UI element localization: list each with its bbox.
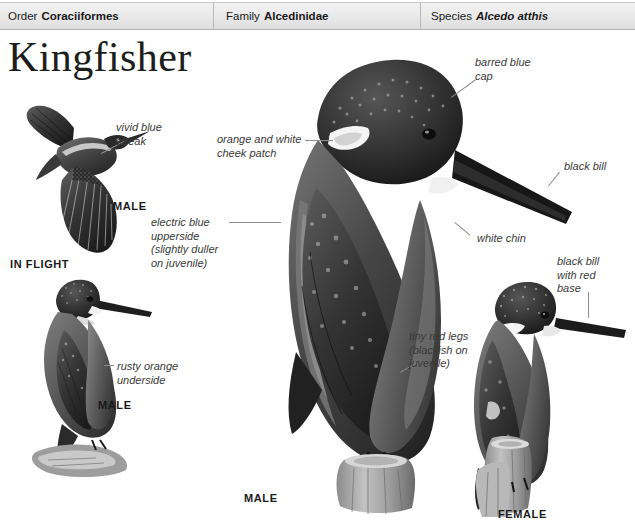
annotation-orange-white-cheek: orange and white cheek patch	[217, 133, 301, 160]
annotation-black-bill: black bill	[564, 160, 606, 174]
annotation-rusty-orange-underside: rusty orange underside	[117, 360, 178, 387]
caption-in-flight: IN FLIGHT	[10, 258, 69, 270]
caption-flight-male: MALE	[113, 200, 147, 212]
caption-main-male: MALE	[244, 492, 278, 504]
leader-line-black-bill-red-base	[588, 292, 589, 318]
caption-female: FEMALE	[498, 508, 547, 520]
annotation-vivid-blue-streak: vivid blue streak	[116, 121, 162, 148]
annotation-barred-blue-cap: barred blue cap	[475, 56, 531, 83]
annotation-white-chin: white chin	[477, 232, 526, 246]
leader-line-orange-white-cheek	[305, 140, 333, 141]
leader-line-rusty-orange-underside	[104, 365, 114, 366]
annotation-black-bill-red-base: black bill with red base	[557, 255, 599, 296]
leader-line-electric-blue-upperside	[229, 222, 281, 223]
annotation-electric-blue-upperside: electric blue upperside (slightly duller…	[151, 216, 218, 270]
bird-female-illustration	[474, 282, 626, 517]
annotation-tiny-red-legs: tiny red legs (blackish on juvenile)	[409, 330, 468, 371]
caption-perched-male-left: MALE	[98, 399, 132, 411]
